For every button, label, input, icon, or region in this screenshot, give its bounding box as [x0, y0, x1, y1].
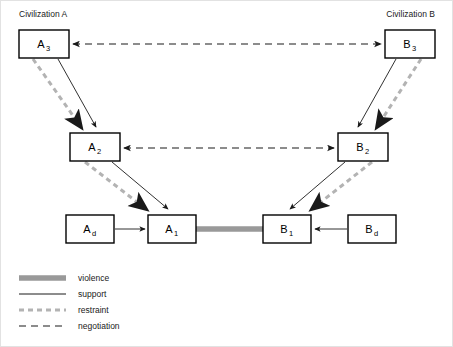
- relationship-diagram: Civilization A Civilization B: [0, 0, 453, 347]
- group-title-right: Civilization B: [386, 9, 435, 19]
- legend-label-negotiation: negotiation: [78, 321, 120, 331]
- legend-label-support: support: [78, 289, 107, 299]
- legend-label-restraint: restraint: [78, 305, 109, 315]
- node-ad-sub: d: [92, 229, 96, 238]
- diagram-canvas: Civilization A Civilization B: [0, 0, 453, 347]
- edge-b3-b2-support: [358, 59, 396, 127]
- node-b2[interactable]: B 2: [338, 133, 388, 161]
- legend-label-violence: violence: [78, 273, 109, 283]
- node-a3-sub: 3: [46, 44, 50, 53]
- node-a3-label: A: [37, 38, 45, 50]
- legend-item-support: support: [19, 289, 107, 299]
- edge-a3-a2-restraint: [33, 59, 81, 127]
- legend-item-violence: violence: [19, 273, 109, 283]
- node-a1[interactable]: A 1: [148, 215, 196, 243]
- edge-a3-a2-support: [58, 59, 96, 127]
- node-b1-label: B: [280, 223, 287, 235]
- node-a3[interactable]: A 3: [19, 30, 69, 58]
- node-b2-label: B: [356, 141, 363, 153]
- node-bd-sub: d: [374, 229, 378, 238]
- node-b3[interactable]: B 3: [385, 30, 435, 58]
- group-title-left: Civilization A: [19, 9, 68, 19]
- node-b1-sub: 1: [289, 229, 293, 238]
- node-b2-sub: 2: [365, 147, 369, 156]
- node-a2-sub: 2: [97, 147, 101, 156]
- node-ad-label: A: [83, 223, 91, 235]
- node-a1-label: A: [165, 223, 173, 235]
- node-bd[interactable]: B d: [348, 215, 396, 243]
- node-a2[interactable]: A 2: [70, 133, 120, 161]
- edge-b2-b1-restraint: [312, 162, 372, 209]
- node-b3-label: B: [403, 38, 410, 50]
- node-ad[interactable]: A d: [66, 215, 114, 243]
- edge-b2-b1-support: [290, 162, 345, 209]
- edge-a2-a1-restraint: [85, 162, 146, 209]
- node-b1[interactable]: B 1: [263, 215, 311, 243]
- legend-item-negotiation: negotiation: [19, 321, 120, 331]
- node-a1-sub: 1: [174, 229, 178, 238]
- node-a2-label: A: [88, 141, 96, 153]
- node-bd-label: B: [365, 223, 372, 235]
- node-b3-sub: 3: [412, 44, 416, 53]
- legend: violence support restraint negotiation: [19, 273, 120, 331]
- edge-a2-a1-support: [112, 162, 168, 209]
- legend-item-restraint: restraint: [19, 305, 109, 315]
- edge-b3-b2-restraint: [377, 59, 421, 127]
